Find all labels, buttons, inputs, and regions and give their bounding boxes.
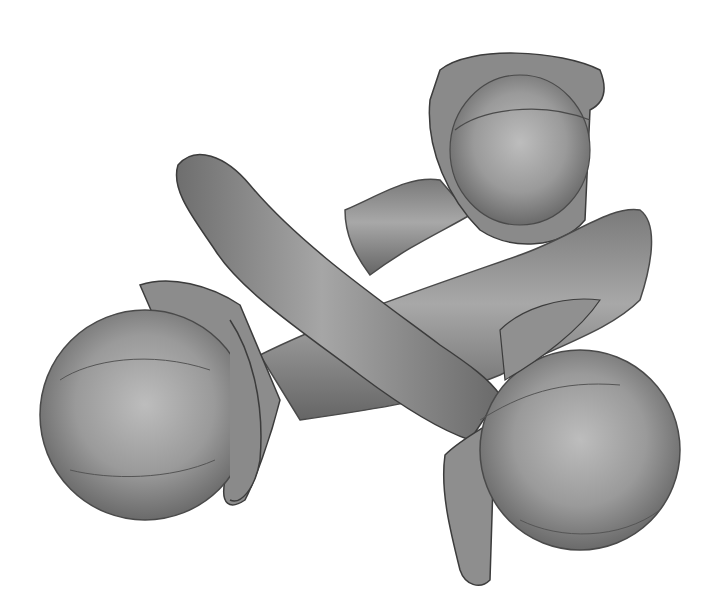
clove-bottom-left <box>40 281 280 520</box>
clove-illustration <box>0 0 719 604</box>
cloves-drawing <box>0 0 719 604</box>
